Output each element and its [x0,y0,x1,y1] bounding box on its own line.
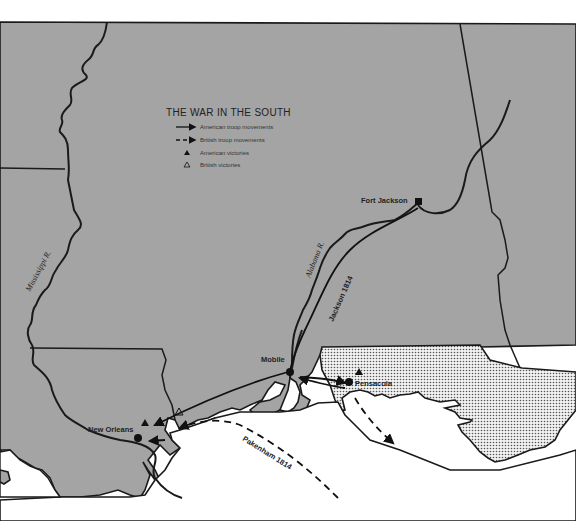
label-fort-jackson: Fort Jackson [361,196,408,205]
legend-item-american-victories: American victories [200,150,249,156]
american-to-new-orleans-2 [150,440,165,441]
label-mobile: Mobile [261,355,285,364]
war-in-the-south-map: Fort Jackson Mobile Pensacola New Orlean… [0,0,576,521]
border-arkansas-louisiana-north [0,168,65,169]
new-orleans-dot [134,434,142,442]
legend-item-british-victories: British victories [200,162,240,168]
legend-title: THE WAR IN THE SOUTH [166,107,291,118]
label-pensacola: Pensacola [355,379,393,388]
legend-item-american-movements: American troop movements [200,124,273,130]
fort-jackson-marker [415,198,422,205]
legend-item-british-movements: British troop movements [200,137,265,143]
pensacola-dot [345,378,353,386]
label-new-orleans: New Orleans [88,425,133,434]
small-island [0,470,10,484]
mobile-dot [286,368,294,376]
